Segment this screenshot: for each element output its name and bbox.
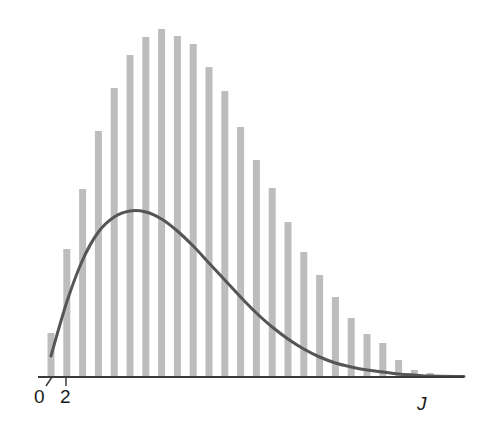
bar bbox=[95, 131, 102, 377]
x-tick-label-2: 2 bbox=[60, 386, 71, 407]
bar bbox=[237, 127, 244, 377]
bar bbox=[269, 188, 276, 377]
bar bbox=[174, 36, 181, 377]
x-axis-label: J bbox=[416, 393, 427, 414]
bar bbox=[142, 37, 149, 377]
bar bbox=[316, 275, 323, 377]
bar bbox=[190, 44, 197, 377]
x-tick-label-0: 0 bbox=[34, 386, 45, 407]
bar bbox=[300, 252, 307, 377]
bar-series bbox=[48, 29, 434, 377]
bar bbox=[285, 222, 292, 377]
bar bbox=[111, 88, 118, 377]
chart: 0 2 J bbox=[0, 0, 495, 435]
bar bbox=[253, 160, 260, 377]
bar bbox=[127, 55, 134, 377]
bar bbox=[206, 67, 213, 377]
bar bbox=[221, 91, 228, 377]
bar bbox=[79, 189, 86, 377]
bar bbox=[158, 29, 165, 377]
x-tick-0 bbox=[46, 377, 52, 386]
